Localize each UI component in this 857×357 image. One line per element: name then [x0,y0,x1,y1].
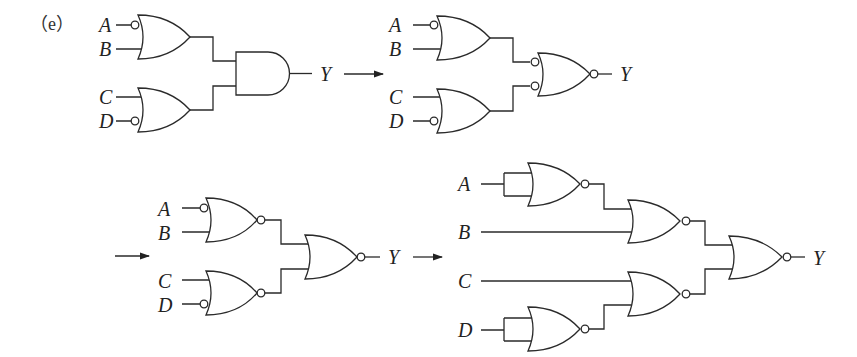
inversion-bubble [131,21,139,29]
inversion-bubble [430,21,438,29]
nor-gate [628,272,680,316]
inversion-bubble [581,180,589,188]
or-gate [138,88,190,132]
or-gate [138,15,190,59]
nor-gate [538,53,590,96]
input-label-d: D [157,294,173,316]
input-label-b: B [158,222,170,244]
output-label-y: Y [320,63,333,85]
inversion-bubble [200,300,208,308]
inversion-bubble [200,204,208,212]
and-gate [236,52,290,95]
input-label-c: C [99,86,113,108]
input-label-b: B [389,38,401,60]
nor-gate [528,163,580,206]
inversion-bubble [430,117,438,125]
input-label-a: A [387,14,402,36]
nor-gate [206,198,257,242]
or-gate [437,89,490,133]
input-label-a: A [156,198,171,220]
input-label-c: C [158,270,172,292]
input-label-b: B [458,221,470,243]
inversion-bubble [357,253,365,261]
nor-gate [628,200,680,243]
input-label-c: C [389,86,403,108]
nor-gate [206,271,257,315]
logic-circuit-figure: （e） A B C D Y A B C D [0,0,857,357]
input-label-d: D [98,110,114,132]
inversion-bubble [783,253,791,261]
inversion-bubble [131,117,139,125]
inversion-bubble [257,289,265,297]
or-gate [437,16,490,60]
inversion-bubble [581,325,589,333]
output-label-y: Y [620,63,633,85]
input-label-c: C [458,270,472,292]
nor-gate [528,307,580,351]
inversion-bubble [682,217,690,225]
input-label-d: D [457,319,473,341]
input-label-b: B [99,38,111,60]
diagram-step3: A B C D Y [156,198,401,316]
input-label-d: D [388,110,404,132]
inversion-bubble [531,82,539,90]
input-label-a: A [456,173,471,195]
output-label-y: Y [813,247,826,269]
diagram-step4: A B C D Y [456,163,826,351]
output-label-y: Y [388,246,401,268]
inversion-bubble [682,290,690,298]
inversion-bubble [257,216,265,224]
input-label-a: A [97,14,112,36]
figure-tag: （e） [30,14,74,34]
nor-gate [305,235,357,279]
diagram-step1: A B C D Y [97,14,333,132]
inversion-bubble [590,70,598,78]
diagram-step2: A B C D Y [387,14,633,133]
inversion-bubble [531,58,539,66]
nor-gate [729,236,782,279]
